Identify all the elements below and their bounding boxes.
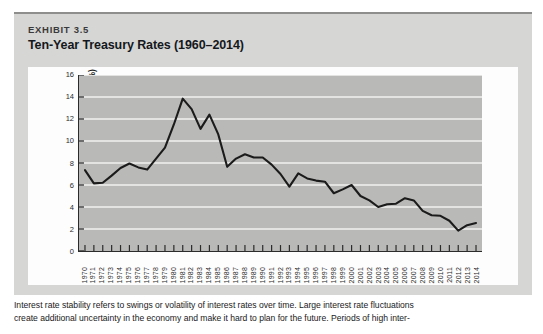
line-chart-svg [79, 75, 482, 251]
x-axis-tick-label: 2011 [446, 267, 453, 283]
x-axis-tick-label: 1971 [89, 267, 96, 283]
chart-plot-wrapper: 10-Year treasury yield (%) 0246810121416… [28, 67, 518, 285]
x-axis-tick-label: 1970 [81, 267, 88, 283]
x-axis-tick-label: 1980 [170, 267, 177, 283]
x-axis-tick-label: 2013 [464, 267, 471, 283]
x-axis-tick-label: 2003 [375, 267, 382, 283]
x-axis-tick-label: 1988 [241, 267, 248, 283]
x-axis-tick-label: 2008 [419, 267, 426, 283]
x-axis-tick-label: 1982 [187, 267, 194, 283]
page-top-margin [0, 0, 543, 12]
exhibit-box: EXHIBIT 3.5 Ten-Year Treasury Rates (196… [14, 12, 532, 295]
x-axis-tick-label: 1993 [285, 267, 292, 283]
plot-area [78, 75, 482, 252]
x-axis-tick-label: 2000 [348, 267, 355, 283]
exhibit-title: Ten-Year Treasury Rates (1960–2014) [28, 37, 498, 53]
x-axis-tick-label: 1977 [143, 267, 150, 283]
page-left-margin [0, 0, 14, 334]
x-axis-tick-label: 2001 [357, 267, 364, 283]
caption-text: Interest rate stability refers to swings… [14, 299, 530, 324]
x-axis-tick-label: 1986 [223, 267, 230, 283]
x-axis-tick-label: 2002 [366, 267, 373, 283]
x-axis-tick-label: 1996 [312, 267, 319, 283]
y-axis-tick-label: 16 [58, 70, 74, 79]
x-axis-tick-label: 1973 [107, 267, 114, 283]
chart-card: 10-Year treasury yield (%) 0246810121416… [28, 67, 518, 285]
x-axis-tick-label: 2012 [455, 267, 462, 283]
x-axis-tick-label: 2005 [392, 267, 399, 283]
x-axis-tick-label: 1992 [277, 267, 284, 283]
x-axis-tick-label: 1978 [152, 267, 159, 283]
x-axis-tick-label: 2006 [401, 267, 408, 283]
x-axis-tick-marks [85, 245, 476, 251]
x-axis-tick-label: 1972 [98, 267, 105, 283]
x-axis-tick-label: 1990 [259, 267, 266, 283]
x-axis-tick-label: 1999 [339, 267, 346, 283]
exhibit-label: EXHIBIT 3.5 [28, 24, 498, 36]
y-axis-tick-label: 4 [58, 203, 74, 212]
x-axis-tick-label: 2010 [437, 267, 444, 283]
x-axis-tick-label: 2009 [428, 267, 435, 283]
x-axis-tick-label: 1976 [134, 267, 141, 283]
y-axis-tick-marks [79, 75, 84, 251]
gridlines [79, 75, 482, 229]
page-right-margin [532, 0, 543, 334]
x-axis-tick-label: 1975 [125, 267, 132, 283]
y-axis-tick-labels: 0246810121416 [56, 67, 74, 285]
x-axis-tick-label: 2014 [473, 267, 480, 283]
x-axis-tick-label: 1989 [250, 267, 257, 283]
x-axis-tick-label: 1983 [196, 267, 203, 283]
x-axis-tick-label: 1998 [330, 267, 337, 283]
x-axis-tick-label: 1979 [161, 267, 168, 283]
x-axis-tick-label: 1994 [294, 267, 301, 283]
y-axis-tick-label: 12 [58, 114, 74, 123]
x-axis-tick-label: 2007 [410, 267, 417, 283]
x-axis-tick-label: 1995 [303, 267, 310, 283]
y-axis-tick-label: 14 [58, 92, 74, 101]
caption-line-1: Interest rate stability refers to swings… [14, 299, 530, 312]
x-axis-tick-label: 1984 [205, 267, 212, 283]
x-axis-tick-label: 1974 [116, 267, 123, 283]
y-axis-tick-label: 0 [58, 247, 74, 256]
y-axis-tick-label: 10 [58, 136, 74, 145]
x-axis-tick-label: 2004 [383, 267, 390, 283]
y-axis-tick-label: 8 [58, 159, 74, 168]
x-axis-tick-label: 1981 [179, 267, 186, 283]
x-axis-tick-label: 1987 [232, 267, 239, 283]
x-axis-tick-labels: 1970197119721973197419751976197719781979… [78, 255, 482, 285]
y-axis-tick-label: 6 [58, 181, 74, 190]
x-axis-tick-label: 1985 [214, 267, 221, 283]
x-axis-tick-label: 1991 [268, 267, 275, 283]
page-root: EXHIBIT 3.5 Ten-Year Treasury Rates (196… [0, 0, 543, 334]
y-axis-tick-label: 2 [58, 225, 74, 234]
caption-line-2: create additional uncertainty in the eco… [14, 312, 530, 325]
x-axis-tick-label: 1997 [321, 267, 328, 283]
exhibit-header: EXHIBIT 3.5 Ten-Year Treasury Rates (196… [28, 24, 498, 53]
